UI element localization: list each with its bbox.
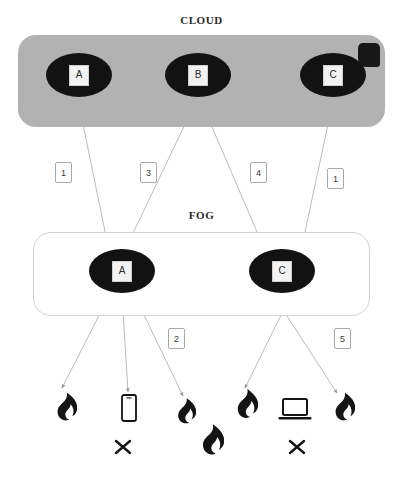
x-mark-icon bbox=[287, 437, 307, 457]
edge-label-fog-device-5: 5 bbox=[334, 328, 351, 349]
cloud-node-b[interactable]: B bbox=[165, 53, 231, 97]
cloud-node-c[interactable]: C bbox=[300, 53, 366, 97]
x-mark-icon bbox=[113, 437, 133, 457]
fog-node-c-label: C bbox=[272, 261, 292, 282]
fog-layer-container bbox=[33, 232, 370, 316]
flame-icon bbox=[174, 397, 196, 427]
edge-label-cloud-fog-3: 3 bbox=[140, 162, 157, 183]
device-smartphone[interactable] bbox=[112, 388, 146, 428]
smartphone-icon bbox=[121, 394, 137, 422]
device-flame-1[interactable] bbox=[48, 388, 82, 428]
fog-node-a-label: A bbox=[112, 261, 132, 282]
fog-node-c[interactable]: C bbox=[249, 249, 315, 293]
mark-flame bbox=[196, 426, 226, 456]
cloud-node-b-label: B bbox=[188, 65, 208, 86]
edge-label-cloud-fog-1: 1 bbox=[55, 162, 72, 183]
fog-layer-title: FOG bbox=[0, 209, 403, 221]
cloud-node-a[interactable]: A bbox=[46, 53, 112, 97]
flame-icon bbox=[53, 392, 77, 424]
fog-cloud-architecture-diagram: CLOUD A B C 1 3 4 1 FOG A C 2 5 bbox=[0, 0, 403, 477]
cloud-node-a-label: A bbox=[69, 65, 89, 86]
cloud-layer-title: CLOUD bbox=[0, 14, 403, 26]
mark-x-1 bbox=[108, 432, 138, 462]
device-flame-4[interactable] bbox=[326, 388, 360, 428]
edge-label-cloud-fog-1b: 1 bbox=[327, 168, 344, 189]
edge-label-cloud-fog-4: 4 bbox=[250, 162, 267, 183]
fog-node-a[interactable]: A bbox=[89, 249, 155, 293]
laptop-icon bbox=[278, 398, 312, 422]
edge-label-fog-device-2: 2 bbox=[168, 328, 185, 349]
device-flame-3[interactable] bbox=[228, 385, 262, 425]
flame-icon bbox=[198, 423, 224, 459]
cloud-node-c-label: C bbox=[323, 65, 343, 86]
device-laptop[interactable] bbox=[278, 390, 312, 430]
mark-x-2 bbox=[282, 432, 312, 462]
flame-icon bbox=[331, 392, 355, 424]
flame-icon bbox=[233, 388, 258, 422]
